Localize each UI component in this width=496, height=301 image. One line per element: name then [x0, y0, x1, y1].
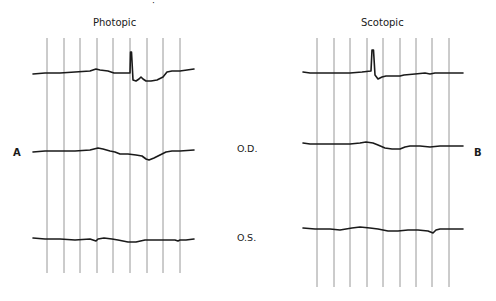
erg-trace-os [33, 238, 194, 242]
panel-a [33, 38, 194, 273]
panel-a-letter: A [13, 147, 21, 158]
row-label-od: O.D. [237, 143, 257, 154]
panel-b-title: Scotopic [361, 17, 404, 28]
erg-trace-od [33, 148, 194, 160]
stray-mark: · [152, 0, 155, 8]
panel-b-letter: B [474, 147, 482, 158]
panel-b [303, 38, 463, 287]
erg-figure: Photopic Scotopic A B O.D. O.S. · [0, 0, 496, 301]
erg-trace-top [33, 52, 194, 81]
row-label-os: O.S. [237, 232, 256, 243]
panel-a-title: Photopic [93, 17, 136, 28]
